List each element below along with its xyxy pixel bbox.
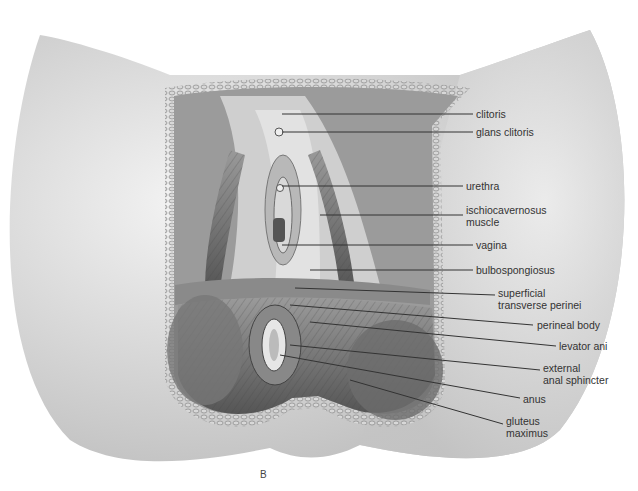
panel-letter: B: [260, 469, 267, 480]
label-gluteus-maximus: gluteusmaximus: [506, 415, 548, 439]
label-text-line2: anal sphincter: [543, 374, 608, 386]
label-text: gluteus: [506, 415, 548, 427]
label-text: vagina: [476, 239, 507, 251]
label-text-line2: maximus: [506, 427, 548, 439]
label-text: glans clitoris: [476, 126, 534, 138]
label-perineal-body: perineal body: [537, 319, 600, 331]
label-text: bulbospongiosus: [476, 264, 555, 276]
label-urethra: urethra: [466, 180, 499, 192]
label-ischiocavernosus-muscle: ischiocavernosusmuscle: [466, 204, 547, 228]
label-text: superficial: [498, 287, 581, 299]
dissection-window: [165, 78, 470, 427]
label-levator-ani: levator ani: [559, 340, 607, 352]
label-text: external: [543, 362, 608, 374]
label-text: levator ani: [559, 340, 607, 352]
label-anus: anus: [523, 393, 546, 405]
label-vagina: vagina: [476, 239, 507, 251]
label-external-anal-sphincter: externalanal sphincter: [543, 362, 608, 386]
label-text: anus: [523, 393, 546, 405]
label-text: ischiocavernosus: [466, 204, 547, 216]
label-clitoris: clitoris: [476, 108, 506, 120]
label-text: perineal body: [537, 319, 600, 331]
label-text: urethra: [466, 180, 499, 192]
label-glans-clitoris: glans clitoris: [476, 126, 534, 138]
label-bulbospongiosus: bulbospongiosus: [476, 264, 555, 276]
label-superficial-transverse-perinei: superficialtransverse perinei: [498, 287, 581, 311]
label-text-line2: transverse perinei: [498, 299, 581, 311]
label-text: clitoris: [476, 108, 506, 120]
label-text-line2: muscle: [466, 216, 547, 228]
